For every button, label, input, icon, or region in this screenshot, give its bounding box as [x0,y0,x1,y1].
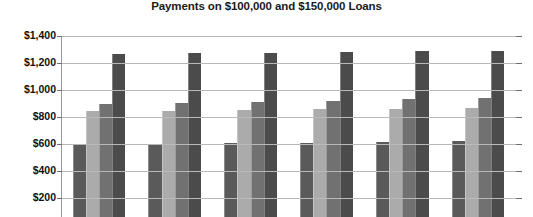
y-axis-tick [57,36,62,37]
y-axis-tick [57,171,62,172]
bar [224,143,237,217]
y-axis-tick-right [516,144,522,145]
y-axis-tick [57,144,62,145]
bar [188,53,201,217]
y-axis-label: $1,000 [0,83,56,95]
bar [237,110,250,217]
bar [415,51,428,217]
bar [340,52,353,217]
chart-title: Payments on $100,000 and $150,000 Loans [0,0,533,14]
bar [112,54,125,217]
gridline [61,144,516,145]
gridline [61,171,516,172]
y-axis-tick-right [516,63,522,64]
y-axis-tick [57,90,62,91]
y-axis-label: $1,400 [0,29,56,41]
bar-chart: Payments on $100,000 and $150,000 Loans … [0,0,533,217]
bar [452,141,465,217]
y-axis-tick-right [516,171,522,172]
gridline [61,90,516,91]
bar [175,103,188,217]
bar [376,142,389,217]
y-axis-label: $200 [0,191,56,203]
bar [99,104,112,217]
bar [264,53,277,217]
bar [465,108,478,217]
y-axis-tick-right [516,90,522,91]
bar [389,109,402,217]
y-axis-tick [57,198,62,199]
y-axis-tick [57,63,62,64]
bar [148,144,161,217]
y-axis-tick-right [516,198,522,199]
gridline [61,36,516,37]
bar [251,102,264,217]
gridline [61,198,516,199]
bar [326,101,339,217]
y-axis-label: $600 [0,137,56,149]
bar [491,51,504,217]
y-axis-label: $1,200 [0,56,56,68]
bar [162,111,175,217]
gridline [61,63,516,64]
y-axis-label: $800 [0,110,56,122]
y-axis-tick-right [516,36,522,37]
y-axis-tick [57,117,62,118]
bar [300,143,313,217]
bar [73,144,86,217]
bar [86,111,99,217]
y-axis-label: $400 [0,164,56,176]
y-axis-tick-right [516,117,522,118]
plot-area [61,36,516,217]
bar [313,109,326,217]
gridline [61,117,516,118]
